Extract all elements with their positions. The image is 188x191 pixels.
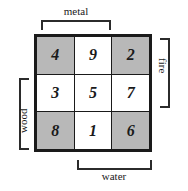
cell-value: 3 xyxy=(51,85,59,101)
magic-square-cell: 8 xyxy=(37,112,74,149)
element-label-water: water xyxy=(38,170,188,182)
lo-shu-magic-square-diagram: metal 4 9 2 3 5 7 8 1 6 fire xyxy=(0,0,188,191)
magic-square-cell: 1 xyxy=(75,112,112,149)
cell-value: 7 xyxy=(127,85,135,101)
cell-value: 6 xyxy=(127,123,135,139)
magic-square-cell: 5 xyxy=(75,75,112,112)
bracket-water xyxy=(77,160,152,170)
cell-value: 1 xyxy=(89,123,97,139)
magic-square-cell: 2 xyxy=(112,37,149,74)
cell-value: 2 xyxy=(127,47,135,63)
element-label-metal: metal xyxy=(0,5,152,17)
bracket-metal xyxy=(41,20,111,30)
element-label-fire: fire xyxy=(157,58,169,73)
magic-square-cell: 9 xyxy=(75,37,112,74)
cell-value: 4 xyxy=(51,47,59,63)
cell-value: 5 xyxy=(89,85,97,101)
magic-square-cell: 3 xyxy=(37,75,74,112)
magic-square-cell: 7 xyxy=(112,75,149,112)
element-label-wood: wood xyxy=(17,109,29,133)
magic-square-grid: 4 9 2 3 5 7 8 1 6 xyxy=(34,34,152,152)
magic-square-cell: 4 xyxy=(37,37,74,74)
cell-value: 8 xyxy=(51,123,59,139)
magic-square-cell: 6 xyxy=(112,112,149,149)
cell-value: 9 xyxy=(89,47,97,63)
